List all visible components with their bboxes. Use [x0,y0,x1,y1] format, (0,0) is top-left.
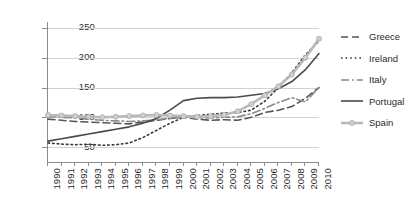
x-tick-mark [223,162,224,166]
x-tick-label: 1994 [105,168,116,190]
data-point-spain [303,55,308,60]
data-point-spain [140,113,145,118]
data-point-spain [262,93,267,98]
x-tick-label: 1995 [119,168,130,190]
data-point-spain [100,115,105,120]
legend-label: Portugal [369,96,404,107]
x-tick-mark [142,162,143,166]
data-point-spain [195,114,200,119]
legend-swatch-greece-icon [341,32,363,42]
data-point-spain [235,109,240,114]
series-line-ireland [48,41,319,145]
x-tick-label: 2006 [268,168,279,190]
data-point-spain [208,114,213,119]
data-point-spain [276,84,281,89]
x-tick-label: 2005 [254,168,265,190]
x-tick-mark [264,162,265,166]
legend-item-italy[interactable]: Italy [341,69,418,91]
legend-item-greece[interactable]: Greece [341,26,418,48]
x-tick-label: 2008 [295,168,306,190]
x-tick-label: 2010 [322,168,333,190]
data-point-spain [59,113,64,118]
x-tick-label: 1996 [132,168,143,190]
data-point-spain [127,114,132,119]
x-tick-label: 2001 [200,168,211,190]
x-tick-mark [318,162,319,166]
x-tick-label: 1998 [159,168,170,190]
data-point-spain [154,112,159,117]
x-tick-mark [210,162,211,166]
data-point-spain [222,112,227,117]
x-tick-mark [291,162,292,166]
data-point-spain [86,114,91,119]
legend-swatch-spain-icon [341,118,363,128]
x-tick-label: 2000 [187,168,198,190]
data-point-spain [289,72,294,77]
x-tick-label: 2002 [214,168,225,190]
legend-item-spain[interactable]: Spain [341,112,418,134]
series-line-spain [48,39,319,118]
data-point-spain [167,113,172,118]
x-tick-mark [196,162,197,166]
x-tick-label: 1991 [65,168,76,190]
x-tick-mark [237,162,238,166]
plot-area [47,22,319,163]
x-tick-mark [128,162,129,166]
x-tick-mark [183,162,184,166]
x-tick-label: 2007 [281,168,292,190]
x-tick-label: 2004 [241,168,252,190]
data-point-spain [317,36,322,41]
data-point-spain [46,112,51,117]
x-tick-label: 1990 [51,168,62,190]
legend-swatch-portugal-icon [341,96,363,106]
x-tick-mark [88,162,89,166]
x-tick-mark [169,162,170,166]
x-tick-label: 2009 [308,168,319,190]
x-tick-mark [155,162,156,166]
x-tick-mark [61,162,62,166]
x-tick-mark [304,162,305,166]
x-tick-mark [101,162,102,166]
series-line-portugal [48,54,319,142]
legend-label: Italy [369,74,386,85]
legend-swatch-ireland-icon [341,53,363,63]
x-tick-label: 1999 [173,168,184,190]
x-tick-label: 2003 [227,168,238,190]
x-tick-label: 1992 [78,168,89,190]
data-point-spain [249,102,254,107]
legend-item-portugal[interactable]: Portugal [341,91,418,113]
legend-label: Spain [369,117,393,128]
legend-label: Ireland [369,53,398,64]
x-tick-mark [74,162,75,166]
data-point-spain [73,114,78,119]
line-chart: 50100150200250 1990199119921993199419951… [0,0,418,224]
x-tick-mark [277,162,278,166]
chart-legend: GreeceIrelandItalyPortugalSpain [341,26,418,134]
legend-swatch-italy-icon [341,75,363,85]
legend-item-ireland[interactable]: Ireland [341,48,418,70]
series-lines [48,22,319,162]
legend-label: Greece [369,31,400,42]
x-tick-mark [115,162,116,166]
x-tick-mark [47,162,48,166]
x-tick-label: 1993 [92,168,103,190]
data-point-spain [113,114,118,119]
x-tick-label: 1997 [146,168,157,190]
x-tick-mark [250,162,251,166]
data-point-spain [181,114,186,119]
